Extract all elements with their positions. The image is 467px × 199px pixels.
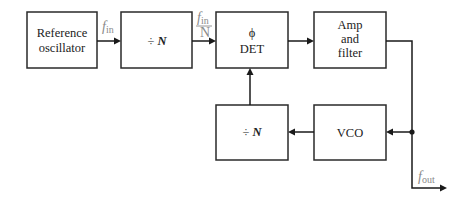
wire-amp-to-output-node	[386, 41, 447, 192]
signal-fout-label: fout	[418, 169, 435, 185]
svg-text:fin: fin	[197, 10, 209, 26]
wire-node-to-vco	[386, 129, 415, 136]
junction-dot	[409, 129, 414, 134]
divider-fb-variable: N	[251, 125, 262, 139]
block-divide-by-n-input: ÷ N	[121, 12, 192, 68]
wire-vco-to-feedback-divider	[288, 129, 314, 136]
divider-variable: N	[156, 34, 167, 48]
wire-ref-to-divider	[97, 38, 121, 45]
divider-label: ÷ N	[147, 34, 167, 48]
ref-osc-line1: Reference	[37, 26, 88, 40]
signal-fin-over-n-label: fin N	[196, 10, 212, 40]
pll-diagram: Reference oscillator ÷ N ϕ DET Amp and f…	[0, 0, 467, 199]
ref-osc-line2: oscillator	[39, 41, 86, 55]
block-vco: VCO	[314, 105, 386, 160]
arrow-head-icon	[386, 129, 393, 136]
amp-line3: filter	[338, 46, 363, 60]
divide-symbol: ÷	[242, 125, 249, 139]
arrow-head-icon	[440, 185, 447, 192]
svg-text:N: N	[200, 25, 210, 40]
wire-feedback-to-phase-det	[247, 68, 254, 105]
divide-symbol: ÷	[147, 34, 154, 48]
amp-line2: and	[341, 32, 360, 46]
arrow-head-icon	[247, 68, 254, 75]
arrow-head-icon	[114, 38, 121, 45]
amp-line1: Amp	[338, 18, 363, 32]
block-phase-detector: ϕ DET	[216, 12, 288, 68]
block-amp-and-filter: Amp and filter	[314, 12, 386, 68]
block-divide-by-n-feedback: ÷ N	[216, 105, 288, 160]
wire-phase-det-to-amp	[288, 38, 314, 45]
divider-fb-label: ÷ N	[242, 125, 262, 139]
signal-fin-label: fin	[102, 19, 114, 35]
block-reference-oscillator: Reference oscillator	[27, 12, 97, 68]
arrow-head-icon	[288, 129, 295, 136]
arrow-head-icon	[307, 38, 314, 45]
phase-symbol: ϕ	[249, 26, 256, 40]
phase-det-label: DET	[240, 42, 265, 56]
vco-label: VCO	[337, 126, 363, 140]
